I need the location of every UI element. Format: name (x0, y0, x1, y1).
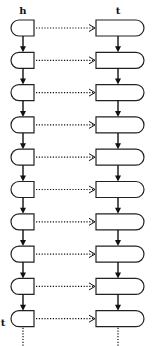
right-node (96, 149, 144, 165)
right-node (96, 278, 144, 294)
right-down-arrowhead (115, 176, 121, 182)
linked-list-diagram: h t t (0, 0, 156, 346)
right-node (96, 182, 144, 198)
label-bottom-left: t (1, 317, 6, 328)
left-down-arrowhead (20, 79, 26, 85)
left-node (11, 52, 34, 68)
left-down-arrowhead (20, 46, 26, 52)
left-node (11, 311, 34, 327)
right-node (96, 117, 144, 133)
right-node (96, 20, 144, 36)
right-node (96, 246, 144, 262)
right-node (96, 311, 144, 327)
right-down-arrowhead (115, 240, 121, 246)
left-node (11, 20, 34, 36)
left-down-arrowhead (20, 176, 26, 182)
left-node (11, 182, 34, 198)
label-t: t (116, 5, 121, 16)
left-node (11, 149, 34, 165)
right-down-arrowhead (115, 111, 121, 117)
right-down-arrowhead (115, 272, 121, 278)
left-down-arrowhead (20, 305, 26, 311)
right-down-arrowhead (115, 305, 121, 311)
left-down-arrowhead (20, 143, 26, 149)
left-node (11, 214, 34, 230)
right-down-arrowhead (115, 208, 121, 214)
left-down-arrowhead (20, 272, 26, 278)
right-node (96, 214, 144, 230)
left-down-arrowhead (20, 240, 26, 246)
right-down-arrowhead (115, 143, 121, 149)
right-down-arrowhead (115, 46, 121, 52)
left-node (11, 278, 34, 294)
right-node (96, 52, 144, 68)
left-down-arrowhead (20, 208, 26, 214)
right-node (96, 85, 144, 101)
left-down-arrowhead (20, 111, 26, 117)
left-node (11, 117, 34, 133)
label-h: h (19, 5, 27, 16)
left-node (11, 85, 34, 101)
left-node (11, 246, 34, 262)
diagram-rows (11, 20, 144, 346)
right-down-arrowhead (115, 79, 121, 85)
